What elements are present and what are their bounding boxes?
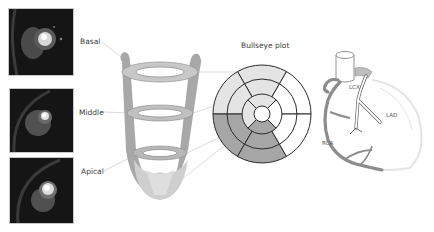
label-lad: LAD [386, 112, 397, 118]
bullseye-plot [213, 65, 311, 163]
bullseye-title: Bullseye plot [241, 41, 289, 50]
coronary-heart [324, 52, 421, 171]
label-rca: RCA [322, 140, 333, 146]
lv-cone-model [120, 52, 201, 200]
diagram-graphics [0, 0, 434, 232]
label-lcx: LCX [349, 84, 360, 90]
